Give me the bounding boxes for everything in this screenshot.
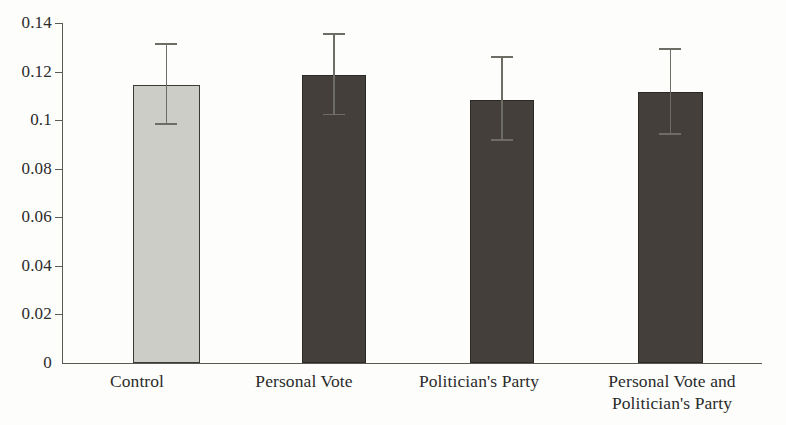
y-tick-label: 0.06 — [0, 208, 52, 225]
bar-personal-vote — [302, 75, 366, 363]
x-label-personal-vote-and-politicians-party: Personal Vote and Politician's Party — [566, 370, 778, 414]
bar-chart: 0.14 0.12 0.1 0.08 0.06 0.04 0.02 0 — [0, 0, 786, 425]
x-label-line1: Personal Vote and — [566, 370, 778, 392]
error-cap-bottom-control — [155, 123, 177, 125]
x-axis-line — [62, 363, 762, 364]
error-cap-top-politicians-party — [491, 56, 513, 58]
error-bar-personal-vote — [333, 35, 335, 115]
error-cap-top-personal-vote — [323, 33, 345, 35]
error-bar-personal-vote-and-politicians-party — [670, 50, 672, 135]
error-bar-politicians-party — [501, 58, 503, 141]
error-cap-top-control — [155, 43, 177, 45]
bar-control — [133, 85, 200, 363]
x-label-line1: Personal Vote — [220, 370, 388, 392]
error-cap-top-personal-vote-and-politicians-party — [659, 48, 681, 50]
y-tick-label: 0.1 — [0, 111, 52, 128]
x-label-line2: Politician's Party — [566, 392, 778, 414]
error-bar-control — [166, 45, 168, 125]
y-tick-label: 0.02 — [0, 305, 52, 322]
error-cap-bottom-personal-vote — [323, 114, 345, 116]
x-label-control: Control — [57, 370, 217, 392]
y-tick-label: 0.14 — [0, 14, 52, 31]
error-cap-bottom-politicians-party — [491, 139, 513, 141]
x-label-politicians-party: Politician's Party — [387, 370, 571, 392]
x-label-line1: Control — [57, 370, 217, 392]
plot-area — [62, 23, 762, 363]
y-tick-label: 0.12 — [0, 63, 52, 80]
y-tick-label: 0.08 — [0, 160, 52, 177]
y-tick-label: 0.04 — [0, 257, 52, 274]
x-label-line1: Politician's Party — [387, 370, 571, 392]
x-label-personal-vote: Personal Vote — [220, 370, 388, 392]
y-tick-label: 0 — [0, 354, 52, 371]
error-cap-bottom-personal-vote-and-politicians-party — [659, 133, 681, 135]
